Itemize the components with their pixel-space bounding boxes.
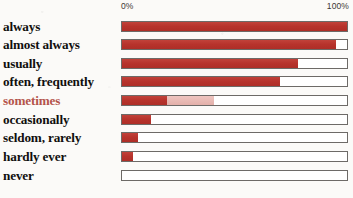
bar-row-label: always bbox=[3, 18, 40, 36]
bar-track bbox=[121, 151, 348, 162]
bar-fill bbox=[122, 77, 280, 86]
bar-fill-soft bbox=[167, 96, 214, 105]
axis-tick-min: 0% bbox=[121, 1, 134, 11]
bar-row-label: never bbox=[3, 167, 34, 185]
bar-row: hardly ever bbox=[0, 148, 353, 166]
bar-row-label: seldom, rarely bbox=[3, 129, 81, 147]
bar-track bbox=[121, 132, 348, 143]
percent-axis: 0% 100% bbox=[121, 1, 348, 15]
bar-fill bbox=[122, 59, 298, 68]
axis-tick-max: 100% bbox=[327, 1, 349, 11]
bar-row: usually bbox=[0, 55, 353, 73]
bar-fill bbox=[122, 133, 138, 142]
bar-row: always bbox=[0, 18, 353, 36]
bar-row-label: hardly ever bbox=[3, 148, 66, 166]
bar-track bbox=[121, 76, 348, 87]
bar-fill bbox=[122, 152, 133, 161]
bar-row-label: sometimes bbox=[3, 92, 60, 110]
bar-row-label: occasionally bbox=[3, 111, 69, 129]
bar-row-label: almost always bbox=[3, 36, 80, 54]
bar-track bbox=[121, 39, 348, 50]
bar-track bbox=[121, 21, 348, 32]
bar-fill bbox=[122, 40, 336, 49]
bar-row: occasionally bbox=[0, 111, 353, 129]
bar-row: often, frequently bbox=[0, 73, 353, 91]
bar-track bbox=[121, 95, 348, 106]
bar-track bbox=[121, 58, 348, 69]
bar-row: never bbox=[0, 167, 353, 185]
bar-row-label: usually bbox=[3, 55, 42, 73]
frequency-bar-chart: 0% 100% alwaysalmost alwaysusuallyoften,… bbox=[0, 0, 353, 198]
bar-row: almost always bbox=[0, 36, 353, 54]
bar-track bbox=[121, 114, 348, 125]
bar-fill bbox=[122, 22, 347, 31]
bar-track bbox=[121, 170, 348, 181]
bar-fill bbox=[122, 115, 151, 124]
bar-row: sometimes bbox=[0, 92, 353, 110]
bar-fill bbox=[122, 96, 167, 105]
bar-row: seldom, rarely bbox=[0, 129, 353, 147]
bar-row-label: often, frequently bbox=[3, 73, 94, 91]
